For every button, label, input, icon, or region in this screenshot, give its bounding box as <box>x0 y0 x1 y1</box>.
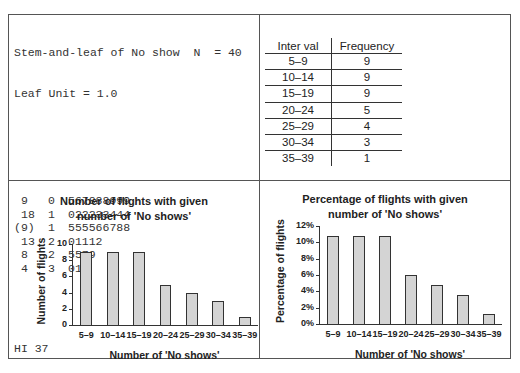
cell-interval: 10–14 <box>265 70 332 86</box>
x-axis-label: Number of 'No shows' <box>319 348 501 360</box>
cell-interval: 25–29 <box>265 118 332 134</box>
chart-title-line: Number of flights with given <box>10 194 258 209</box>
x-tick-label: 15–19 <box>372 329 398 339</box>
bar <box>379 236 391 324</box>
cell-interval: 35–39 <box>265 151 332 167</box>
y-axis-label: Number of flights <box>34 243 46 324</box>
chart-percentage-of-flights: Percentage of flights with givennumber o… <box>261 182 509 358</box>
x-axis-label: Number of 'No shows' <box>72 349 257 361</box>
y-tick-label: 12% <box>284 220 314 230</box>
x-tick-label: 20–24 <box>153 330 179 340</box>
divider-vertical-bottom <box>259 180 260 359</box>
y-tick-label: 4% <box>284 285 314 295</box>
x-tick-label: 15–19 <box>126 330 152 340</box>
y-tick-mark <box>69 276 72 277</box>
table-row: 10–149 <box>265 70 402 86</box>
chart-title-line: Percentage of flights with given <box>261 192 509 207</box>
cell-frequency: 9 <box>332 54 403 70</box>
bar <box>457 295 469 324</box>
y-tick-mark <box>316 226 319 227</box>
cell-frequency: 3 <box>332 134 403 150</box>
bar <box>239 317 251 325</box>
y-tick-label: 10% <box>284 236 314 246</box>
x-tick-label: 10–14 <box>100 330 126 340</box>
cell-frequency: 9 <box>332 86 403 102</box>
bar <box>327 236 339 324</box>
header-interval: Inter val <box>265 38 332 54</box>
cell-frequency: 4 <box>332 118 403 134</box>
stem-header: Stem-and-leaf of No show N = 40 <box>14 46 242 60</box>
chart-title-line: number of 'No shows' <box>10 209 258 224</box>
bar <box>431 285 443 324</box>
table-row: 30–343 <box>265 134 402 150</box>
bar <box>133 252 145 325</box>
bar <box>80 252 92 325</box>
header-frequency: Frequency <box>332 38 403 54</box>
y-tick-label: 2% <box>284 302 314 312</box>
chart-title: Number of flights with givennumber of 'N… <box>10 194 258 224</box>
x-tick-label: 30–34 <box>450 329 476 339</box>
y-tick-mark <box>69 260 72 261</box>
x-tick-label: 5–9 <box>320 329 346 339</box>
bar <box>483 314 495 324</box>
x-tick-label: 25–29 <box>179 330 205 340</box>
y-tick-mark <box>69 293 72 294</box>
cell-interval: 20–24 <box>265 102 332 118</box>
cell-interval: 30–34 <box>265 134 332 150</box>
table-row: 20–245 <box>265 102 402 118</box>
x-tick-label: 20–24 <box>398 329 424 339</box>
bar <box>212 301 224 325</box>
cell-frequency: 1 <box>332 151 403 167</box>
cell-frequency: 5 <box>332 102 403 118</box>
divider-vertical-top <box>259 14 260 180</box>
stem-leaf-unit: Leaf Unit = 1.0 <box>14 87 242 101</box>
x-tick-label: 10–14 <box>346 329 372 339</box>
y-tick-mark <box>316 259 319 260</box>
bar <box>353 236 365 324</box>
frequency-table: Inter val Frequency 5–9910–14915–19920–2… <box>265 38 402 166</box>
bar <box>107 252 119 325</box>
cell-frequency: 9 <box>332 70 403 86</box>
cell-interval: 5–9 <box>265 54 332 70</box>
y-tick-mark <box>69 244 72 245</box>
chart-title: Percentage of flights with givennumber o… <box>261 192 509 222</box>
x-tick-label: 5–9 <box>73 330 99 340</box>
y-tick-label: 6% <box>284 269 314 279</box>
y-tick-mark <box>316 308 319 309</box>
table-row: 35–391 <box>265 151 402 167</box>
chart-number-of-flights: Number of flights with givennumber of 'N… <box>10 182 258 358</box>
plot-area: 0%2%4%6%8%10%12%5–910–1415–1920–2425–293… <box>319 226 502 325</box>
table-row: 5–99 <box>265 54 402 70</box>
table-row: 15–199 <box>265 86 402 102</box>
y-tick-mark <box>69 309 72 310</box>
bar <box>405 275 417 324</box>
table-row: 25–294 <box>265 118 402 134</box>
y-axis-label: Percentage of flights <box>274 225 286 323</box>
bar <box>186 293 198 325</box>
x-tick-label: 25–29 <box>424 329 450 339</box>
y-tick-mark <box>316 275 319 276</box>
plot-area: 02468105–910–1415–1920–2425–2930–3435–39 <box>72 244 258 326</box>
cell-interval: 15–19 <box>265 86 332 102</box>
x-tick-label: 30–34 <box>205 330 231 340</box>
y-tick-label: 8% <box>284 253 314 263</box>
x-tick-label: 35–39 <box>232 330 258 340</box>
y-tick-label: 0% <box>284 318 314 328</box>
bar <box>160 285 172 326</box>
y-tick-mark <box>316 324 319 325</box>
x-tick-label: 35–39 <box>476 329 502 339</box>
y-tick-mark <box>316 291 319 292</box>
y-tick-mark <box>316 242 319 243</box>
y-tick-mark <box>69 325 72 326</box>
